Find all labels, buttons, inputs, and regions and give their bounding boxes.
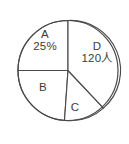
pie-label-a-name: A xyxy=(24,28,66,40)
pie-chart-figure: A 25% B C D 120人 xyxy=(0,0,129,144)
pie-label-a-value: 25% xyxy=(24,40,66,52)
pie-slice-b xyxy=(18,71,68,121)
pie-label-a: A 25% xyxy=(24,28,66,53)
pie-label-d: D 120人 xyxy=(74,40,120,65)
pie-chart-svg xyxy=(0,0,129,144)
pie-label-d-name: D xyxy=(74,40,120,52)
pie-label-c: C xyxy=(65,101,85,113)
pie-label-b-name: B xyxy=(28,81,58,93)
pie-label-b: B xyxy=(28,81,58,93)
pie-label-c-name: C xyxy=(65,101,85,113)
pie-label-d-value: 120人 xyxy=(74,52,120,64)
